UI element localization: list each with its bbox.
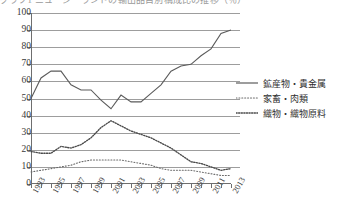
y-axis-label: 50 [7, 94, 31, 104]
x-axis-tick [201, 184, 202, 188]
x-axis-tick [81, 184, 82, 188]
gridline-stub [231, 133, 240, 134]
legend-label: 家畜・肉類 [263, 92, 308, 105]
series-line-textiles [31, 121, 231, 171]
legend-label: 鉱産物・貴金属 [263, 77, 326, 90]
x-axis-tick [101, 184, 102, 188]
x-axis-tick [121, 184, 122, 188]
gridline-stub [231, 116, 240, 117]
y-axis-label: 80 [7, 42, 31, 52]
legend-item: 鉱産物・貴金属 [236, 76, 343, 90]
y-axis-label: 60 [7, 76, 31, 86]
x-axis-tick [161, 184, 162, 188]
y-axis-label: 30 [7, 128, 31, 138]
series-layer [31, 13, 231, 184]
gridline-stub [231, 47, 240, 48]
x-axis-tick [41, 184, 42, 188]
gridline-stub [231, 81, 240, 82]
y-axis-label: 70 [7, 59, 31, 69]
x-axis-tick [221, 184, 222, 188]
gridline-stub [231, 167, 240, 168]
gridline-stub [231, 64, 240, 65]
legend-key-solid-icon [236, 78, 258, 88]
x-axis-tick [181, 184, 182, 188]
y-axis-label: 20 [7, 145, 31, 155]
y-axis-label: 0 [7, 179, 31, 189]
legend-label: 織物・織物原料 [263, 107, 326, 120]
y-axis: 0102030405060708090100 [0, 0, 31, 218]
y-axis-label: 100 [7, 8, 31, 18]
y-axis-label: 10 [7, 162, 31, 172]
x-axis-tick [141, 184, 142, 188]
x-axis-tick [61, 184, 62, 188]
figure-caption-text: グラフ1 ニュージーランドの輸出品目別構成比の推移（％） [0, 0, 343, 5]
x-axis-label: 2013 [230, 175, 247, 195]
gridline-stub [231, 150, 240, 151]
y-axis-label: 40 [7, 111, 31, 121]
gridline-stub [231, 13, 240, 14]
series-line-livestock [31, 160, 231, 175]
x-axis: 1993199519971999200120032005200720092011… [31, 184, 241, 218]
legend-item: 織物・織物原料 [236, 106, 343, 120]
legend: 鉱産物・貴金属 家畜・肉類 織物・織物原料 [236, 76, 343, 121]
y-axis-label: 90 [7, 25, 31, 35]
figure-caption-clipped: グラフ1 ニュージーランドの輸出品目別構成比の推移（％） [0, 0, 343, 6]
legend-item: 家畜・肉類 [236, 91, 343, 105]
series-line-minerals [31, 30, 231, 109]
chart-figure: グラフ1 ニュージーランドの輸出品目別構成比の推移（％） 01020304050… [0, 0, 343, 218]
gridline-stub [231, 30, 240, 31]
gridline-stub [231, 99, 240, 100]
